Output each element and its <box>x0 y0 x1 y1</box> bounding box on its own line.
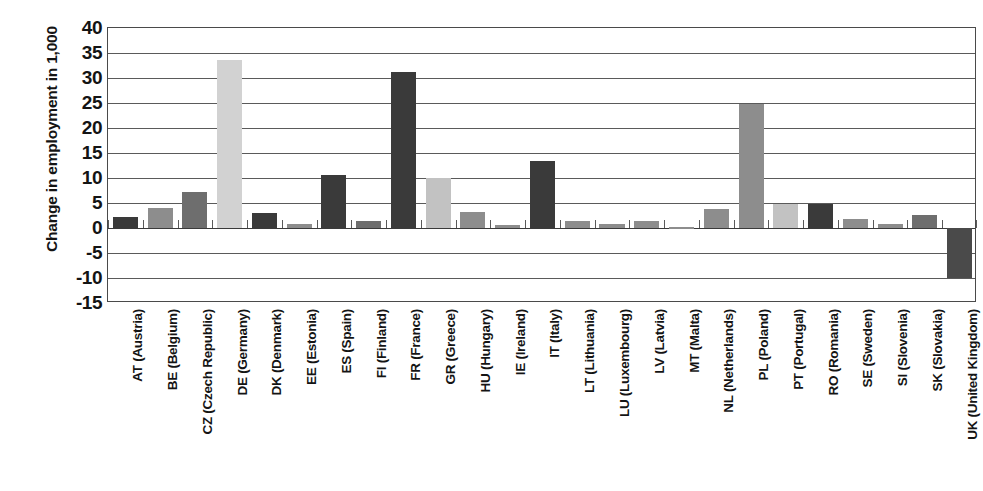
x-axis-tick <box>525 220 526 228</box>
x-axis-tick <box>456 220 457 228</box>
x-axis-tick <box>976 220 977 228</box>
x-axis-tick <box>351 220 352 228</box>
bar-slot <box>734 28 769 301</box>
bar[interactable] <box>912 215 937 228</box>
x-axis-tick <box>664 220 665 228</box>
bar-slot <box>838 28 873 301</box>
bar-slot <box>803 28 838 301</box>
bar[interactable] <box>252 213 277 228</box>
x-axis-tick <box>838 220 839 228</box>
x-axis-tick <box>942 220 943 228</box>
x-axis-tick <box>768 220 769 228</box>
bar[interactable] <box>217 60 242 229</box>
bar[interactable] <box>460 212 485 229</box>
x-axis-tick <box>108 220 109 228</box>
bar-slot <box>525 28 560 301</box>
bar-slot <box>178 28 213 301</box>
bar-slot <box>629 28 664 301</box>
bar-slot <box>907 28 942 301</box>
bar-slot <box>212 28 247 301</box>
bar[interactable] <box>634 221 659 229</box>
bar-slot <box>247 28 282 301</box>
x-axis-tick <box>699 220 700 228</box>
x-axis-tick <box>734 220 735 228</box>
y-tick-label: -5 <box>30 243 102 262</box>
bar-slot <box>768 28 803 301</box>
bar-slot <box>282 28 317 301</box>
chart-figure: Change in employment in 1,000 4035302520… <box>0 0 983 491</box>
y-tick-label: 20 <box>30 118 102 137</box>
bar-slot <box>386 28 421 301</box>
y-tick-label: -10 <box>30 268 102 287</box>
y-tick-label: 35 <box>30 43 102 62</box>
x-axis-tick <box>629 220 630 228</box>
bar[interactable] <box>773 204 798 228</box>
bar-slot <box>351 28 386 301</box>
x-axis-tick <box>212 220 213 228</box>
bar[interactable] <box>704 209 729 228</box>
y-tick-label: 5 <box>30 193 102 212</box>
bar[interactable] <box>565 221 590 229</box>
x-axis-tick <box>490 220 491 228</box>
x-axis-tick <box>907 220 908 228</box>
bar-slot <box>873 28 908 301</box>
y-tick-label: 25 <box>30 93 102 112</box>
bar-slot <box>456 28 491 301</box>
y-tick-label: 10 <box>30 168 102 187</box>
y-tick-label: 30 <box>30 68 102 87</box>
x-axis-tick <box>282 220 283 228</box>
x-axis-tick <box>317 220 318 228</box>
bar[interactable] <box>808 204 833 228</box>
bar[interactable] <box>182 192 207 229</box>
bar[interactable] <box>391 72 416 229</box>
bar[interactable] <box>356 221 381 228</box>
y-tick-label: 40 <box>30 18 102 37</box>
x-axis-tick <box>873 220 874 228</box>
bar[interactable] <box>426 178 451 229</box>
x-axis-tick <box>595 220 596 228</box>
bar[interactable] <box>878 224 903 228</box>
y-tick-label: -15 <box>30 293 102 312</box>
plot-area <box>107 27 976 302</box>
bar-slot <box>490 28 525 301</box>
bar-slot-end <box>976 28 977 301</box>
bar[interactable] <box>321 175 346 229</box>
bar[interactable] <box>148 208 173 228</box>
bar[interactable] <box>739 104 764 229</box>
bar-slot <box>942 28 977 301</box>
y-axis-tick-labels: 4035302520151050-5-10-15 <box>30 0 102 310</box>
x-axis-tick <box>803 220 804 228</box>
x-axis-tick <box>247 220 248 228</box>
bar-slot <box>108 28 143 301</box>
x-axis-tick <box>386 220 387 228</box>
bar[interactable] <box>843 219 868 228</box>
bar[interactable] <box>495 225 520 228</box>
bar-slot <box>560 28 595 301</box>
x-axis-tick <box>421 220 422 228</box>
bar-slot <box>699 28 734 301</box>
bar[interactable] <box>287 224 312 228</box>
bar[interactable] <box>669 227 694 229</box>
x-axis-tick-labels: AT (Austria)BE (Belgium)CZ (Czech Republ… <box>107 305 976 491</box>
bar[interactable] <box>113 217 138 228</box>
bar-slot <box>421 28 456 301</box>
y-tick-label: 15 <box>30 143 102 162</box>
bar-slot <box>317 28 352 301</box>
x-axis-tick <box>178 220 179 228</box>
y-tick-label: 0 <box>30 218 102 237</box>
bar-slot <box>664 28 699 301</box>
bar-slot <box>595 28 630 301</box>
bar[interactable] <box>947 228 972 278</box>
bar[interactable] <box>599 224 624 228</box>
bar-series <box>108 28 975 301</box>
x-axis-tick <box>560 220 561 228</box>
bar[interactable] <box>530 161 555 229</box>
x-axis-tick <box>143 220 144 228</box>
bar-slot <box>143 28 178 301</box>
